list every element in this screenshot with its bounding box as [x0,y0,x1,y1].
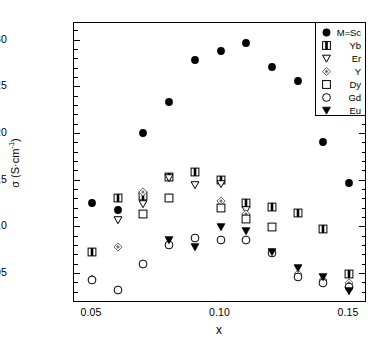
data-point-yb [113,193,122,202]
data-point-y [345,279,354,288]
data-point-yb [190,168,199,177]
data-point-er [216,180,225,189]
data-point-y [216,197,225,206]
legend-label: M=Sc [336,27,365,38]
y-tick-label: 0.25 [0,79,7,91]
y-tick-label: 0.20 [0,126,7,138]
data-point-y [139,187,148,196]
data-point-m-sc [293,76,302,85]
legend-marker-icon [316,28,336,37]
y-tick-label: 0.15 [0,173,7,185]
data-point-gd [293,272,302,281]
data-point-eu [242,227,251,236]
data-point-m-sc [139,129,148,138]
data-point-gd [113,285,122,294]
legend-marker-icon [316,93,336,102]
data-point-gd [87,275,96,284]
y-axis-title-main: σ (S·cm [9,149,21,188]
data-point-er [113,215,122,224]
data-point-gd [190,233,199,242]
legend-label: Dy [336,79,365,90]
data-point-yb [216,175,225,184]
legend-entry-yb: Yb [316,39,365,52]
data-point-yb [319,225,328,234]
data-point-y [242,210,251,219]
data-point-eu [345,286,354,295]
legend-box: M=ScYbErYDyGdEu [315,22,366,116]
data-point-gd [139,259,148,268]
y-axis-title-exponent: -1 [7,142,16,149]
axis-tick [74,301,78,302]
data-point-m-sc [319,138,328,147]
data-point-y [293,270,302,279]
data-point-yb [267,202,276,211]
data-point-dy [242,215,251,224]
data-point-gd [216,235,225,244]
data-point-m-sc [87,199,96,208]
data-point-er [139,200,148,209]
legend-marker-icon [316,106,336,115]
x-tick-label: 0.05 [81,306,102,318]
data-point-gd [165,241,174,250]
data-point-m-sc [165,98,174,107]
data-point-yb [293,209,302,218]
y-tick-label: 0.30 [0,33,7,45]
data-point-er [190,181,199,190]
legend-entry-dy: Dy [316,78,365,91]
data-point-er [242,205,251,214]
legend-entry-er: Er [316,52,365,65]
data-point-gd [345,283,354,292]
legend-marker-icon [316,41,336,50]
y-axis-title: σ (S·cm-1) [7,138,21,188]
data-point-dy [139,210,148,219]
data-point-er [165,173,174,182]
data-point-eu [216,223,225,232]
data-point-dy [267,223,276,232]
legend-label: Y [336,66,365,77]
x-axis-title: x [216,323,222,337]
y-tick-label: 0.05 [0,266,7,278]
y-axis-title-close: ) [9,138,21,142]
x-tick-label: 0.10 [209,306,230,318]
data-point-yb [139,191,148,200]
legend-marker-icon [316,80,336,89]
data-point-y [319,275,328,284]
x-tick-label: 0.15 [338,306,359,318]
data-point-m-sc [190,56,199,65]
data-point-m-sc [345,178,354,187]
legend-marker-icon [316,54,336,63]
data-point-m-sc [267,62,276,71]
scatter-plot-figure: σ (S·cm-1) x 0.050.100.150.200.250.30 0.… [0,0,386,350]
legend-label: Er [336,53,365,64]
data-point-y [87,274,96,283]
data-point-gd [319,279,328,288]
data-point-yb [165,173,174,182]
data-point-yb [345,270,354,279]
data-point-y [165,193,174,202]
data-point-gd [267,248,276,257]
data-point-m-sc [242,38,251,47]
data-point-eu [293,264,302,273]
legend-entry-m-sc: M=Sc [316,26,365,39]
legend-label: Gd [336,92,365,103]
legend-marker-icon [316,67,336,76]
data-point-y [113,243,122,252]
legend-entry-gd: Gd [316,91,365,104]
data-point-yb [242,199,251,208]
data-point-dy [165,193,174,202]
legend-entry-eu: Eu [316,104,365,117]
legend-entry-y: Y [316,65,365,78]
data-point-eu [165,236,174,245]
data-point-dy [216,203,225,212]
data-point-eu [319,272,328,281]
data-point-eu [190,243,199,252]
data-point-eu [267,247,276,256]
axis-tick [362,301,366,302]
data-point-m-sc [113,205,122,214]
data-point-gd [242,236,251,245]
y-tick-label: 0.10 [0,219,7,231]
legend-label: Eu [336,105,365,116]
data-point-yb [87,247,96,256]
legend-label: Yb [336,40,365,51]
data-point-m-sc [216,47,225,56]
